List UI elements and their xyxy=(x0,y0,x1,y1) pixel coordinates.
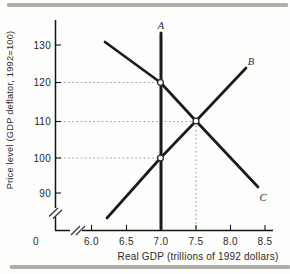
price-level-gdp-chart: A B C 130 120 110 100 90 0 6.0 6.5 7.0 7… xyxy=(0,0,290,274)
y-axis-break-icon xyxy=(49,208,62,219)
bottom-rule-bar xyxy=(10,265,290,269)
curves xyxy=(105,33,258,229)
x-axis-ticks xyxy=(92,225,266,231)
textbook-figure: A B C 130 120 110 100 90 0 6.0 6.5 7.0 7… xyxy=(0,0,290,274)
x-tick-label-8-0: 8.0 xyxy=(223,236,238,247)
x-axis-tick-labels: 0 6.0 6.5 7.0 7.5 8.0 8.5 xyxy=(33,236,272,247)
x-tick-label-6-5: 6.5 xyxy=(119,236,134,247)
dotted-guide-lines xyxy=(56,83,197,231)
curve-b-label: B xyxy=(248,56,255,67)
intersection-point-a-c xyxy=(158,80,164,86)
y-tick-label-130: 130 xyxy=(33,40,51,51)
y-axis-tick-labels: 130 120 110 100 90 xyxy=(33,40,51,199)
x-tick-label-8-5: 8.5 xyxy=(258,236,273,247)
origin-label: 0 xyxy=(33,236,39,247)
curve-a-label: A xyxy=(157,20,165,31)
curve-b-line xyxy=(107,68,246,218)
y-tick-label-120: 120 xyxy=(33,77,51,88)
y-axis-title: Price level (GDP deflator, 1992=100) xyxy=(5,31,15,190)
intersection-point-a-b xyxy=(158,155,164,161)
axes-lines xyxy=(55,20,273,231)
y-tick-label-110: 110 xyxy=(34,116,51,127)
x-tick-label-6-0: 6.0 xyxy=(84,236,99,247)
curve-c-label: C xyxy=(259,192,267,203)
intersection-point-b-c xyxy=(193,118,199,124)
x-tick-label-7-5: 7.5 xyxy=(189,236,204,247)
intersection-points xyxy=(158,80,199,161)
y-axis-ticks xyxy=(56,45,62,193)
y-tick-label-100: 100 xyxy=(33,153,51,164)
x-tick-label-7-0: 7.0 xyxy=(154,236,169,247)
x-axis-title: Real GDP (trillions of 1992 dollars) xyxy=(118,251,279,262)
top-rule-bar xyxy=(7,3,288,7)
curve-c-line xyxy=(105,42,258,187)
y-tick-label-90: 90 xyxy=(39,188,51,199)
